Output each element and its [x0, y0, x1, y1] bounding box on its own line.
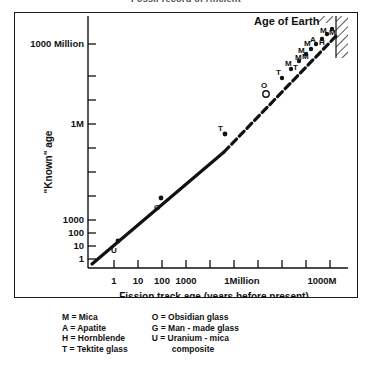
y-axis-title: "Known" age — [43, 130, 54, 193]
legend-column-left: M = Mica A = Apatite H = Hornblende T = … — [62, 312, 128, 354]
age-of-earth-annotation: Age of Earth — [254, 15, 320, 27]
legend-item-obsidian-glass: O = Obsidian glass — [152, 312, 239, 323]
legend-item-apatite: A = Apatite — [62, 323, 128, 334]
identity-line-dashed — [224, 34, 338, 152]
y-tick-label-100: 100 — [68, 227, 84, 238]
data-point-label-o: O — [261, 81, 267, 90]
figure-caption: Fossil record of Ancient — [0, 0, 372, 2]
data-point-o — [263, 91, 269, 97]
age-of-earth-annotation-hatch — [317, 16, 333, 23]
legend-item-uranium-mica-continuation: composite — [152, 344, 239, 355]
data-point-label-t-2: T — [276, 68, 281, 77]
data-point-label-m-5: M — [320, 26, 327, 35]
y-tick-label-1000-million: 1000 Million — [30, 38, 84, 49]
x-tick-label-1million: 1Million — [224, 275, 260, 286]
data-point-label-m-2: T — [293, 63, 298, 72]
legend-item-tektite-glass: T = Tektite glass — [62, 344, 128, 355]
fission-track-chart: 1 10 100 1000 1M 1000 Million 1 10 100 1… — [14, 12, 358, 298]
x-tick-label-1000m: 1000M — [307, 275, 336, 286]
data-point-label-h: H — [319, 38, 325, 47]
x-tick-label-1: 1 — [111, 275, 117, 286]
legend-item-hornblende: H = Hornblende — [62, 333, 128, 344]
y-tick-label-1000: 1000 — [63, 214, 84, 225]
legend: M = Mica A = Apatite H = Hornblende T = … — [62, 312, 342, 354]
legend-item-man-made-glass: G = Man - made glass — [152, 323, 239, 334]
x-tick-label-100: 100 — [154, 275, 170, 286]
data-point-label-u: U — [111, 246, 117, 255]
data-point-label-m-1: M — [285, 59, 292, 68]
data-point-label-t-1: T — [218, 124, 223, 133]
y-axis-ticks — [88, 44, 96, 259]
y-tick-label-10: 10 — [73, 240, 84, 251]
legend-column-right: O = Obsidian glass G = Man - made glass … — [152, 312, 239, 354]
y-tick-label-1m: 1M — [71, 118, 84, 129]
data-point-label-g: G — [154, 203, 160, 212]
x-axis-ticks — [114, 260, 330, 268]
data-point-label-m-7: M — [295, 53, 302, 62]
legend-item-mica: M = Mica — [62, 312, 128, 323]
age-of-earth-band — [336, 16, 348, 58]
data-point-label-m-6: M — [329, 28, 336, 37]
data-point-t-1 — [223, 132, 228, 137]
x-tick-label-10: 10 — [133, 275, 144, 286]
data-point-g — [159, 196, 164, 201]
data-point-label-m-8: M — [302, 52, 309, 61]
legend-item-uranium-mica: U = Uranium - mica — [152, 333, 239, 344]
x-axis-title: Fission track age (years before present) — [119, 291, 309, 298]
y-tick-label-1: 1 — [79, 253, 85, 264]
chart-page: Fossil record of Ancient 1 10 100 1000 1… — [0, 0, 372, 377]
data-point-label-a: A — [310, 35, 316, 44]
data-point-u — [116, 239, 121, 244]
x-tick-label-1000: 1000 — [175, 275, 196, 286]
